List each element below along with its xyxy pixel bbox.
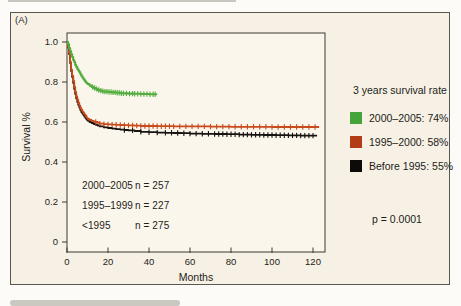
legend-title: 3 years survival rate <box>353 84 453 96</box>
legend-item: Before 1995: 55% <box>350 160 453 172</box>
group-count-row: 1995–1999n = 227 <box>82 196 169 216</box>
legend-item-label: Before 1995: 55% <box>369 160 453 172</box>
y-tick-label: 0.6 <box>45 116 58 127</box>
y-tick-label: 1.0 <box>45 36 58 47</box>
x-tick-label: 80 <box>226 256 237 267</box>
x-tick-label: 100 <box>264 256 280 267</box>
legend-item: 1995–2000: 58% <box>350 136 453 148</box>
legend-item: 2000–2005: 74% <box>350 112 453 124</box>
y-tick-label: 0 <box>53 236 58 247</box>
x-tick-label: 20 <box>103 256 114 267</box>
p-value: p = 0.0001 <box>372 213 422 225</box>
group-count-row: 2000–2005n = 257 <box>82 176 169 196</box>
legend-item-label: 1995–2000: 58% <box>369 136 448 148</box>
group-label: 1995–1999 <box>82 196 135 216</box>
x-tick-label: 60 <box>185 256 196 267</box>
legend-swatch-green <box>350 112 362 124</box>
y-tick-label: 0.2 <box>45 196 58 207</box>
x-tick-label: 0 <box>64 256 69 267</box>
y-tick-label: 0.8 <box>45 76 58 87</box>
group-count-row: <1995n = 275 <box>82 216 169 236</box>
group-counts: 2000–2005n = 257 1995–1999n = 227 <1995n… <box>82 176 169 236</box>
group-n: n = 227 <box>135 200 169 211</box>
x-axis-label: Months <box>179 271 213 283</box>
legend-swatch-red <box>350 136 362 148</box>
legend-item-label: 2000–2005: 74% <box>369 112 448 124</box>
y-axis-label: Survival % <box>20 112 32 162</box>
group-label: <1995 <box>82 216 135 236</box>
group-label: 2000–2005 <box>82 176 135 196</box>
figure-canvas: (A) 1.00.80.60.40.20020406080100120Month… <box>0 0 461 306</box>
x-tick-label: 40 <box>144 256 155 267</box>
group-n: n = 257 <box>135 180 169 191</box>
y-tick-label: 0.4 <box>45 156 58 167</box>
x-tick-label: 120 <box>305 256 321 267</box>
legend: 3 years survival rate 2000–2005: 74% 199… <box>350 84 453 184</box>
group-n: n = 275 <box>135 220 169 231</box>
legend-swatch-black <box>350 160 362 172</box>
